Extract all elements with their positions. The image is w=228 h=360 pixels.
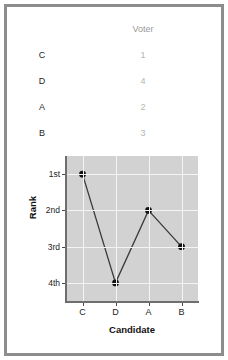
y-axis-line (65, 156, 67, 302)
table-row: C 1 (14, 42, 212, 68)
y-axis-tick-label: 4th (22, 278, 60, 288)
gridline-vertical (83, 156, 84, 301)
table-cell-spacer (70, 68, 104, 94)
table-cell-spacer (70, 42, 104, 68)
x-axis-title: Candidate (66, 324, 198, 335)
gridline-horizontal (66, 247, 198, 248)
table-cell-pad (182, 120, 212, 146)
y-axis-tick (62, 210, 65, 211)
table-cell-spacer (70, 120, 104, 146)
table-row: D 4 (14, 68, 212, 94)
x-axis-tick-label: C (73, 307, 93, 317)
table-header-voter: Voter (104, 16, 182, 42)
table-cell-pad (182, 68, 212, 94)
gridline-horizontal (66, 174, 198, 175)
table-cell-candidate: C (14, 42, 70, 68)
rank-line-chart: 1st2nd3rd4th CDAB Rank Candidate (14, 152, 212, 344)
voter-preference-table: Voter C 1 D 4 A 2 (14, 16, 212, 146)
y-axis-tick-label: 3rd (22, 242, 60, 252)
table-cell-candidate: B (14, 120, 70, 146)
y-axis-tick (62, 247, 65, 248)
table-cell-spacer (70, 94, 104, 120)
x-axis-line (65, 301, 199, 303)
table-cell-voter-rank: 3 (104, 120, 182, 146)
table-cell-pad (182, 94, 212, 120)
y-axis-tick (62, 283, 65, 284)
x-axis-tick (116, 303, 117, 306)
table-header-candidate (14, 16, 70, 42)
gridline-vertical (116, 156, 117, 301)
table-header-pad (182, 16, 212, 42)
table-row: A 2 (14, 94, 212, 120)
x-axis-tick-label: B (172, 307, 192, 317)
table-cell-candidate: A (14, 94, 70, 120)
table-header-row: Voter (14, 16, 212, 42)
gridline-vertical (182, 156, 183, 301)
x-axis-tick (182, 303, 183, 306)
gridline-horizontal (66, 210, 198, 211)
table-cell-voter-rank: 4 (104, 68, 182, 94)
x-axis-tick (83, 303, 84, 306)
series-line (83, 174, 182, 283)
table-cell-pad (182, 42, 212, 68)
gridline-horizontal (66, 283, 198, 284)
y-axis-title: Rank (27, 178, 38, 238)
table-head: Voter (14, 16, 212, 42)
y-axis-tick (62, 174, 65, 175)
page-root: Voter C 1 D 4 A 2 (0, 0, 228, 360)
gridline-vertical (149, 156, 150, 301)
table-cell-voter-rank: 2 (104, 94, 182, 120)
table-header-spacer (70, 16, 104, 42)
table-body: C 1 D 4 A 2 B 3 (14, 42, 212, 146)
plot-area (66, 156, 198, 301)
x-axis-tick-label: A (139, 307, 159, 317)
table-row: B 3 (14, 120, 212, 146)
table-cell-candidate: D (14, 68, 70, 94)
series-line-candidate-rank (66, 156, 198, 301)
table-cell-voter-rank: 1 (104, 42, 182, 68)
x-axis-tick (149, 303, 150, 306)
x-axis-tick-label: D (106, 307, 126, 317)
